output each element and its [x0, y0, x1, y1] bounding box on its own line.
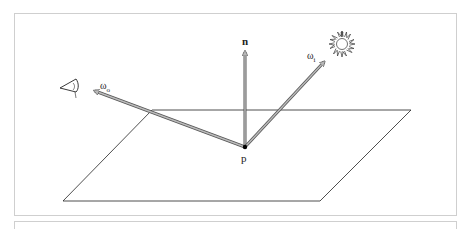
reflection-diagram: n p ωi ωo [0, 0, 472, 229]
incident-label: ωi [307, 50, 316, 64]
surface-point [243, 145, 247, 149]
outgoing-vector [95, 91, 245, 147]
surface-plane [63, 110, 411, 201]
normal-label: n [242, 35, 248, 47]
incident-vector [245, 62, 324, 147]
sun-icon [329, 31, 355, 57]
point-label: p [241, 152, 247, 164]
eye-icon [60, 79, 78, 98]
